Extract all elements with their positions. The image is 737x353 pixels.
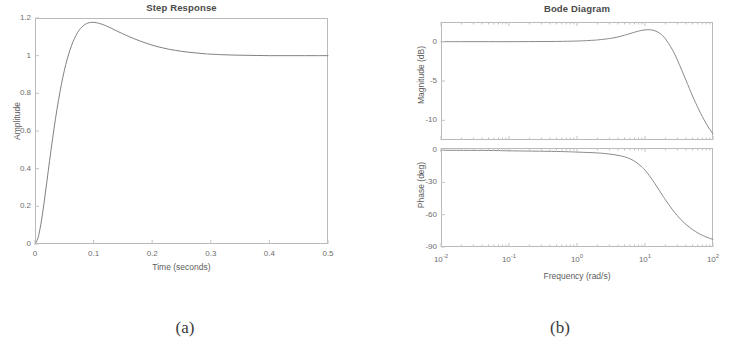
tick-label: 0.3	[196, 249, 226, 258]
tick-label: 0.6	[9, 126, 31, 135]
tick-label: -60	[416, 210, 437, 219]
bode-xlabel: Frequency (rad/s)	[441, 271, 713, 281]
tick-label: 0.4	[254, 249, 284, 258]
tick-label: 1	[9, 51, 31, 60]
caption-a: (a)	[135, 318, 235, 338]
step-response-panel: Step Response Time (seconds) Amplitude (…	[0, 0, 368, 300]
tick-label: 0	[416, 37, 437, 46]
figure-container: Step Response Time (seconds) Amplitude (…	[0, 0, 737, 353]
tick-label-exponential: 100	[557, 253, 597, 264]
tick-label: 0.5	[313, 249, 343, 258]
caption-b: (b)	[510, 318, 610, 338]
tick-label: -90	[416, 242, 437, 251]
tick-label: -10	[416, 115, 437, 124]
tick-label: 0	[416, 145, 437, 154]
tick-label-exponential: 102	[693, 253, 733, 264]
tick-label: 0.2	[9, 201, 31, 210]
tick-label-exponential: 101	[625, 253, 665, 264]
tick-label: 0.1	[79, 249, 109, 258]
tick-label-exponential: 10-2	[421, 253, 461, 264]
tick-label-exponential: 10-1	[489, 253, 529, 264]
step-response-xlabel: Time (seconds)	[35, 262, 328, 272]
tick-label: 0.2	[137, 249, 167, 258]
tick-label: 1.2	[9, 13, 31, 22]
tick-label: 0.4	[9, 164, 31, 173]
tick-label: 0	[9, 239, 31, 248]
tick-label: -5	[416, 76, 437, 85]
step-response-ylabel: Amplitude	[12, 46, 22, 196]
tick-label: 0	[20, 249, 50, 258]
tick-label: -30	[416, 177, 437, 186]
bode-diagram-panel: Bode Diagram Frequency (rad/s) Magnitude…	[400, 0, 737, 300]
tick-label: 0.8	[9, 88, 31, 97]
